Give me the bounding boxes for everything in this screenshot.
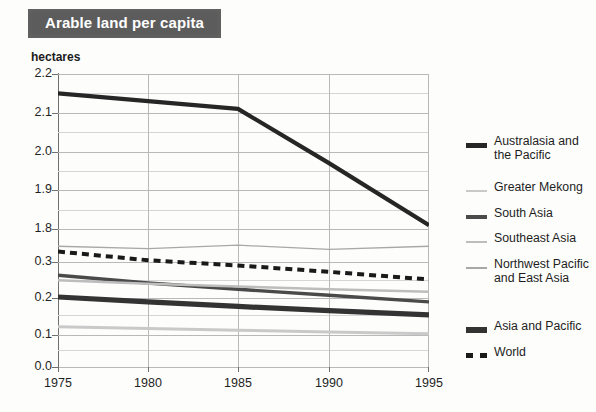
legend-swatch-icon xyxy=(466,267,487,270)
y-axis-tick xyxy=(52,74,58,75)
legend-swatch-icon xyxy=(466,215,487,219)
x-axis-tick-label: 1990 xyxy=(299,376,359,390)
legend-swatch-icon xyxy=(466,143,487,148)
chart-title-banner: Arable land per capita xyxy=(28,9,221,38)
legend-swatch-icon xyxy=(466,190,487,193)
legend-item-label: South Asia xyxy=(494,207,594,221)
x-axis-tick-label: 1975 xyxy=(28,376,88,390)
plot-area xyxy=(58,74,429,367)
y-axis-tick xyxy=(52,298,58,299)
legend-item-label: Asia and Pacific xyxy=(494,320,594,334)
gridline-horizontal xyxy=(58,367,429,368)
y-axis-tick-label: 2.1 xyxy=(18,105,52,119)
y-axis-tick xyxy=(52,113,58,114)
y-axis-unit-label: hectares xyxy=(31,50,80,64)
y-axis-tick xyxy=(52,152,58,153)
x-axis-tick xyxy=(329,367,330,372)
legend-swatch-icon xyxy=(466,241,487,244)
x-axis-tick xyxy=(428,367,429,372)
y-axis-tick xyxy=(52,262,58,263)
y-axis-tick-label: 2.0 xyxy=(18,144,52,158)
legend-swatch-icon xyxy=(466,353,487,358)
legend-item-label: Greater Mekong xyxy=(494,181,594,195)
legend-item-label: Northwest Pacific and East Asia xyxy=(494,258,594,285)
legend-item-label: Southeast Asia xyxy=(494,232,594,246)
y-axis-tick-label: 2.2 xyxy=(18,66,52,80)
series-line xyxy=(58,252,429,280)
y-axis-tick-label: 0.0 xyxy=(18,359,52,373)
y-axis-tick-label: 0.2 xyxy=(18,290,52,304)
y-axis-tick xyxy=(52,229,58,230)
series-line xyxy=(58,327,429,334)
series-line xyxy=(58,245,429,249)
x-axis-tick-label: 1985 xyxy=(208,376,268,390)
series-line xyxy=(58,93,429,225)
legend-swatch-icon xyxy=(466,327,487,333)
y-axis-tick-label: 0.1 xyxy=(18,327,52,341)
page-title: Arable land per capita xyxy=(28,14,221,31)
y-axis-tick-label: 1.9 xyxy=(18,182,52,196)
x-axis-tick-label: 1995 xyxy=(399,376,459,390)
legend-item-label: World xyxy=(494,346,594,360)
y-axis-tick-label: 1.8 xyxy=(18,221,52,235)
series-layer xyxy=(58,74,429,367)
y-axis-tick-label: 0.3 xyxy=(18,254,52,268)
legend-item-label: Australasia and the Pacific xyxy=(494,135,594,162)
y-axis-tick xyxy=(52,190,58,191)
x-axis-tick xyxy=(58,367,59,372)
y-axis-tick xyxy=(52,335,58,336)
x-axis-tick-label: 1980 xyxy=(118,376,178,390)
chart-figure: Arable land per capita hectares 2.22.12.… xyxy=(0,0,596,412)
x-axis-tick xyxy=(148,367,149,372)
x-axis-tick xyxy=(238,367,239,372)
